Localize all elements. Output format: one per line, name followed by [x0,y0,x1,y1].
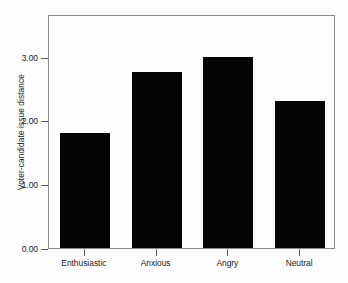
bar-enthusiastic [60,133,110,248]
y-tick-label-0: 0.00 [4,245,38,253]
x-tick-3 [299,249,300,256]
y-tick-1 [41,185,48,186]
y-tick-label-3: 3.00 [4,54,38,62]
x-tick-2 [227,249,228,256]
y-tick-label-2: 2.00 [4,117,38,125]
x-tick-1 [156,249,157,256]
y-tick-2 [41,121,48,122]
bar-angry [203,57,253,248]
bar-neutral [275,101,325,248]
bar-anxious [132,72,182,248]
x-tick-label-neutral: Neutral [254,259,344,268]
plot-area [49,16,334,248]
y-tick-label-1: 1.00 [4,181,38,189]
y-axis-title: Voter-candidate issue distance [14,15,28,249]
y-tick-3 [41,58,48,59]
y-tick-0 [41,249,48,250]
bar-chart-figure: Voter-candidate issue distance 0.001.002… [0,0,348,283]
plot-frame [48,15,335,249]
x-tick-0 [84,249,85,256]
